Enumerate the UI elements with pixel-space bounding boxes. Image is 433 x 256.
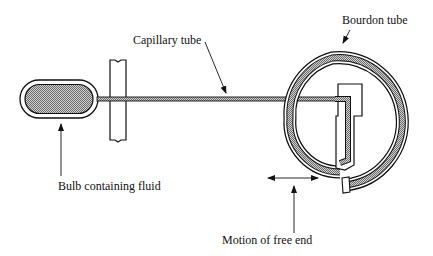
capillary-label: Capillary tube	[133, 33, 201, 47]
bourdon-label: Bourdon tube	[342, 13, 408, 27]
bourdon-thermometer-diagram: Capillary tube Bourdon tube Bulb contain…	[0, 0, 433, 256]
capillary-tube	[97, 97, 339, 101]
capillary-leader	[205, 42, 226, 93]
bulb	[20, 80, 98, 118]
bulb-label: Bulb containing fluid	[58, 179, 161, 193]
motion-double-arrow	[268, 178, 318, 233]
motion-label: Motion of free end	[222, 233, 312, 247]
bourdon-tube	[290, 58, 402, 193]
bourdon-leader	[343, 30, 350, 43]
